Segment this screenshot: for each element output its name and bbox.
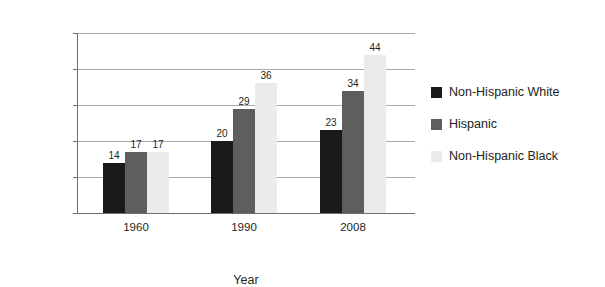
legend-entry[interactable]: Non-Hispanic Black <box>431 148 558 164</box>
y-axis-tick <box>73 33 78 34</box>
bar <box>233 109 255 213</box>
y-axis-tick <box>73 69 78 70</box>
bar <box>211 141 233 213</box>
x-axis-title: Year <box>77 273 415 287</box>
bar-group: 202936 <box>211 33 277 213</box>
bar-value-label: 17 <box>138 140 178 150</box>
bar <box>320 130 342 213</box>
bar-group: 233444 <box>320 33 386 213</box>
legend-entry[interactable]: Non-Hispanic White <box>431 84 559 100</box>
y-axis-line <box>77 33 78 214</box>
legend-swatch-icon <box>431 151 442 162</box>
x-axis-tick-label: 1960 <box>96 221 176 233</box>
bar <box>342 91 364 213</box>
y-axis-tick <box>73 177 78 178</box>
y-axis-tick <box>73 141 78 142</box>
y-axis-tick <box>73 213 78 214</box>
bar <box>103 163 125 213</box>
plot-area: 01020304050 141717202936233444 196019902… <box>77 33 415 213</box>
bar-value-label: 36 <box>246 71 286 81</box>
legend-label: Non-Hispanic White <box>449 86 559 99</box>
bar <box>364 55 386 213</box>
gridline <box>77 213 415 214</box>
bar <box>255 83 277 213</box>
legend-entry[interactable]: Hispanic <box>431 116 497 132</box>
bar-group: 141717 <box>103 33 169 213</box>
x-axis-tick-label: 1990 <box>204 221 284 233</box>
x-axis-tick-label: 2008 <box>313 221 393 233</box>
legend-swatch-icon <box>431 87 442 98</box>
bar <box>147 152 169 213</box>
legend-label: Non-Hispanic Black <box>449 150 558 163</box>
bar <box>125 152 147 213</box>
bar-value-label: 44 <box>355 43 395 53</box>
legend-swatch-icon <box>431 119 442 130</box>
cropped-caption-text <box>52 0 552 4</box>
legend-label: Hispanic <box>449 118 497 131</box>
y-axis-tick <box>73 105 78 106</box>
